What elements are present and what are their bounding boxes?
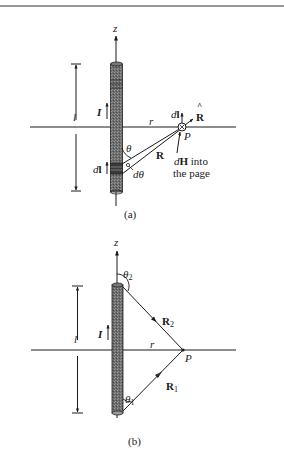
- point-P-label-a: P: [183, 130, 191, 142]
- conductor-wire-b: [112, 283, 123, 415]
- distance-label-a: r: [149, 115, 154, 127]
- vector-R1-label-b: R1: [166, 380, 178, 394]
- unit-vector-label-a: R: [196, 111, 205, 123]
- length-label-b: l: [74, 333, 77, 345]
- distance-label-b: r: [150, 338, 155, 350]
- z-axis-label-a: z: [112, 22, 118, 34]
- panel-a: z l I dl: [30, 22, 236, 221]
- conductor-wire-a: [111, 62, 123, 194]
- unit-vector-arrow-a: [185, 119, 193, 125]
- dH-label-line1-a: dH into: [174, 155, 208, 167]
- vector-R2-label-b: R2: [162, 315, 174, 329]
- dH-label-line2-a: the page: [173, 167, 210, 179]
- point-P-label-b: P: [184, 352, 192, 364]
- dl-p-l-a: l: [177, 108, 180, 120]
- theta1-sub-b: 1: [130, 398, 134, 407]
- z-axis-label-b: z: [113, 236, 119, 248]
- current-label-a: I: [96, 106, 102, 118]
- panel-b: z l I r R2 R1 P: [31, 236, 236, 448]
- current-label-b: I: [97, 328, 103, 340]
- theta2-sub-b: 2: [128, 273, 132, 282]
- dl-element-label-a: dl: [93, 163, 102, 175]
- unit-vector-hat-a: ^: [197, 101, 202, 111]
- dl-l-a: l: [99, 163, 102, 175]
- figure-canvas: z l I dl: [0, 0, 284, 465]
- current-element-a: [111, 163, 123, 174]
- dH-pointer-arrow-a: [177, 132, 180, 153]
- dtheta-label-a: dθ: [133, 168, 145, 180]
- theta2-label-b: θ2: [123, 268, 132, 282]
- theta1-label-b: θ1: [125, 393, 134, 407]
- length-label-a: l: [73, 111, 76, 123]
- theta-label-a: θ: [126, 142, 132, 154]
- R2-sub-b: 2: [170, 320, 174, 329]
- caption-a: (a): [124, 208, 137, 221]
- dl-at-point-label-a: dl: [171, 108, 180, 120]
- vector-R-label-a: R: [156, 149, 165, 161]
- dH-into-a: into: [188, 155, 208, 167]
- R1-sub-b: 1: [174, 385, 178, 394]
- caption-b: (b): [128, 435, 141, 448]
